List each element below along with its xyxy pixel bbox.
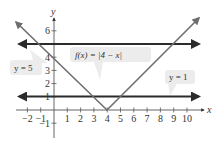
callout-y-equals-5: y = 5 xyxy=(10,60,42,75)
y-axis-label: y xyxy=(50,6,56,17)
x-tick-label: 7 xyxy=(145,113,150,124)
x-tick-label: 6 xyxy=(131,113,136,124)
x-tick-label: 4 xyxy=(105,113,110,124)
x-axis-label: x xyxy=(206,104,212,115)
x-tick-label: 1 xyxy=(65,113,70,124)
callout-y1-text: y = 1 xyxy=(169,72,188,82)
x-tick-label: 10 xyxy=(182,113,192,124)
callout-f-of-x: f(x) = |4 − x| xyxy=(70,47,151,62)
callout-f-text: f(x) = |4 − x| xyxy=(75,50,122,60)
callout-y5-text: y = 5 xyxy=(14,63,33,73)
x-tick-label: 2 xyxy=(78,113,83,124)
absolute-value-graph: −2−112345678910 x −112346 y f(x) = |4 − … xyxy=(0,0,217,141)
y-tick-label: −1 xyxy=(39,118,50,129)
y-tick-label: 2 xyxy=(45,78,50,89)
y-tick-label: 3 xyxy=(45,65,50,76)
x-tick-label: −2 xyxy=(22,113,33,124)
callout-y-equals-1: y = 1 xyxy=(165,70,195,84)
x-tick-label: 5 xyxy=(118,113,123,124)
x-tick-label: 8 xyxy=(158,113,163,124)
x-tick-label: 9 xyxy=(171,113,176,124)
y-tick-label: 6 xyxy=(45,25,50,36)
x-tick-label: 3 xyxy=(91,113,96,124)
